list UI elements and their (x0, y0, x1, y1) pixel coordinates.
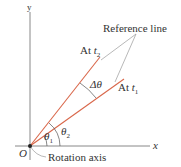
at-t1-sub: 1 (135, 88, 139, 96)
pointer-to-t2 (101, 34, 136, 60)
theta1-label: θ1 (44, 131, 53, 145)
origin-label: O (19, 148, 27, 159)
at-t1-prefix: At (118, 81, 132, 93)
at-t1-label: At t1 (118, 82, 138, 96)
origin-dot (28, 144, 32, 148)
rotation-axis-pointer (30, 146, 46, 157)
theta2-label: θ2 (61, 126, 70, 140)
delta-theta-label: Δθ (90, 79, 102, 90)
rotation-diagram: y x O Reference line At t2 At t1 Δθ θ1 θ… (0, 0, 181, 167)
y-axis-label: y (27, 3, 32, 12)
at-t2-sub: 2 (97, 51, 101, 59)
theta2-sub: 2 (66, 132, 70, 140)
at-t2-label: At t2 (80, 45, 100, 59)
reference-line-label: Reference line (103, 23, 167, 34)
rotation-axis-label: Rotation axis (48, 152, 106, 163)
x-axis-label: x (153, 140, 158, 151)
theta1-sub: 1 (49, 137, 53, 145)
at-t2-prefix: At (80, 44, 94, 56)
pointer-to-t1 (115, 34, 136, 82)
